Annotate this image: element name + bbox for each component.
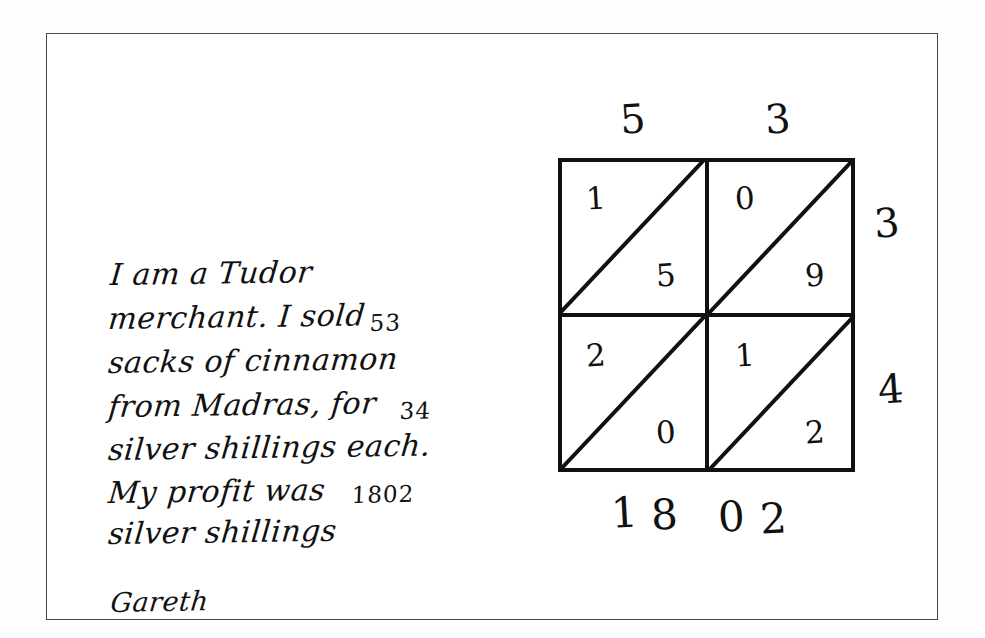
note-line-5: silver shillings each. xyxy=(107,431,432,465)
lattice-top-labels: 5 3 xyxy=(558,96,855,152)
lattice-top-label-1: 3 xyxy=(763,95,792,143)
note-price-per-sack: 34 xyxy=(399,397,432,424)
note-line-1: I am a Tudor xyxy=(109,257,314,290)
scanned-page: I am a Tudor merchant. I sold 53 sacks o… xyxy=(0,0,985,638)
lattice-cell-bottom-left: 2 0 xyxy=(558,315,706,472)
note-line-2: merchant. I sold xyxy=(107,300,367,334)
lattice-cell-top-right-tens: 0 xyxy=(734,180,756,217)
note-quantity-sacks: 53 xyxy=(369,309,402,336)
lattice-right-labels: 3 4 xyxy=(872,158,932,472)
lattice-cell-top-left-units: 5 xyxy=(655,257,677,294)
note-line-7: silver shillings xyxy=(107,516,338,549)
lattice-answer-digits: 1 8 0 2 xyxy=(558,488,898,558)
lattice-cell-bottom-right-tens: 1 xyxy=(734,337,756,374)
lattice-cell-bottom-right: 1 2 xyxy=(707,315,855,472)
lattice-cell-top-left: 1 5 xyxy=(558,158,706,315)
diagonal-line-icon xyxy=(558,315,706,472)
lattice-cell-bottom-right-units: 2 xyxy=(804,414,826,451)
lattice-right-label-0: 3 xyxy=(872,199,901,247)
diagonal-line-icon xyxy=(558,158,706,315)
lattice-grid: 1 5 0 9 2 0 1 2 xyxy=(558,158,855,472)
diagonal-line-icon xyxy=(707,158,855,315)
lattice-cell-top-right: 0 9 xyxy=(707,158,855,315)
diagonal-line-icon xyxy=(707,315,855,472)
lattice-cell-top-left-tens: 1 xyxy=(585,180,607,217)
lattice-cell-bottom-left-tens: 2 xyxy=(585,337,607,374)
lattice-answer-digit-0: 1 xyxy=(610,487,639,537)
note-line-6: My profit was xyxy=(107,475,327,508)
lattice-cell-bottom-left-units: 0 xyxy=(655,414,677,451)
lattice-right-label-1: 4 xyxy=(876,365,905,413)
lattice-answer-digit-2: 0 xyxy=(717,491,746,541)
lattice-cell-top-right-units: 9 xyxy=(804,257,826,294)
note-profit-value: 1802 xyxy=(351,481,415,508)
lattice-answer-digit-1: 8 xyxy=(650,489,679,539)
note-signature: Gareth xyxy=(109,585,210,618)
lattice-top-label-0: 5 xyxy=(618,95,647,143)
note-line-4: from Madras, for xyxy=(107,388,378,422)
lattice-answer-digit-3: 2 xyxy=(759,493,788,543)
note-line-3: sacks of cinnamon xyxy=(107,344,399,378)
